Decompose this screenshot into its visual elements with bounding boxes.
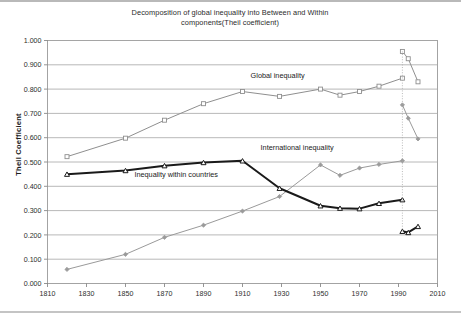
series-annotation-label: Global inequality xyxy=(251,71,305,80)
bottom-divider xyxy=(0,311,461,313)
x-axis-tick-label: 1990 xyxy=(391,290,407,298)
data-point-marker xyxy=(416,80,420,84)
y-axis-tick-label: 0.900 xyxy=(24,61,42,69)
plot-area: 0.0000.1000.2000.3000.4000.5000.6000.700… xyxy=(0,0,461,315)
y-axis-tick-label: 0.200 xyxy=(24,232,42,240)
data-point-marker xyxy=(278,94,282,98)
x-axis-tick-label: 1830 xyxy=(79,290,95,298)
y-axis-tick-label: 0.700 xyxy=(24,110,42,118)
y-axis-tick-label: 1.000 xyxy=(24,37,42,45)
y-axis-tick-label: 0.000 xyxy=(24,280,42,288)
y-axis-tick-label: 0.100 xyxy=(24,256,42,264)
x-axis-tick-label: 1970 xyxy=(352,290,368,298)
series-annotation-label: International inequality xyxy=(261,143,334,152)
data-point-marker xyxy=(124,136,128,140)
data-point-marker xyxy=(65,155,69,159)
data-point-marker xyxy=(406,57,410,61)
x-axis-tick-label: 1870 xyxy=(157,290,173,298)
data-point-marker xyxy=(163,118,167,122)
data-point-marker xyxy=(358,90,362,94)
y-axis-tick-label: 0.500 xyxy=(24,159,42,167)
x-axis-tick-label: 2010 xyxy=(430,290,446,298)
chart-figure: Decomposition of global inequality into … xyxy=(0,0,461,315)
data-point-marker xyxy=(241,90,245,94)
series-annotation-label: Inequality within countries xyxy=(134,170,218,179)
data-point-marker xyxy=(377,84,381,88)
data-point-marker xyxy=(202,102,206,106)
y-axis-tick-label: 0.300 xyxy=(24,207,42,215)
data-point-marker xyxy=(338,93,342,97)
x-axis-tick-label: 1890 xyxy=(196,290,212,298)
y-axis-tick-label: 0.600 xyxy=(24,134,42,142)
x-axis-tick-label: 1910 xyxy=(235,290,251,298)
x-axis-tick-label: 1930 xyxy=(274,290,290,298)
y-axis-tick-label: 0.400 xyxy=(24,183,42,191)
x-axis-tick-label: 1950 xyxy=(313,290,329,298)
x-axis-tick-label: 1810 xyxy=(40,290,56,298)
y-axis-tick-label: 0.800 xyxy=(24,86,42,94)
data-point-marker xyxy=(319,87,323,91)
x-axis-tick-label: 1850 xyxy=(118,290,134,298)
